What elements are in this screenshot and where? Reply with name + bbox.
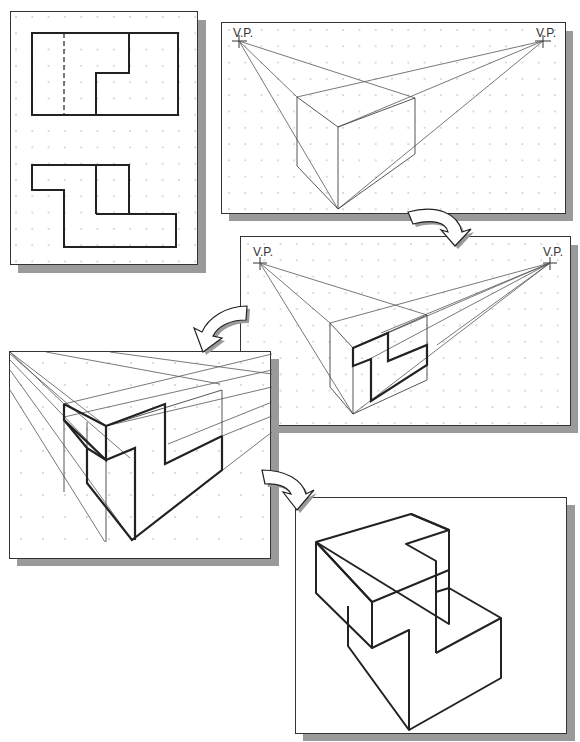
panel-orthographic-views (10, 11, 198, 265)
front-face-profile-drawing (241, 237, 572, 427)
vp-right-label: V.P. (536, 27, 556, 39)
dot-grid (11, 12, 199, 266)
bounding-box-drawing (222, 23, 567, 215)
dot-grid (10, 352, 272, 560)
orthographic-views-drawing (11, 12, 199, 266)
dot-grid (222, 23, 567, 215)
panel-bounding-box-perspective: V.P. V.P. (221, 22, 566, 214)
panel-final-object (295, 497, 567, 734)
final-object-outline (316, 514, 501, 730)
panel-front-face-profile: V.P. V.P. (240, 236, 571, 426)
vp-left-label: V.P. (233, 27, 253, 39)
vp-left-label: V.P. (253, 246, 273, 258)
dot-grid (241, 237, 572, 427)
vp-right-label: V.P. (543, 246, 563, 258)
enlarged-construction-drawing (10, 352, 272, 560)
panel-enlarged-construction (9, 351, 271, 559)
final-object-drawing (296, 498, 568, 735)
